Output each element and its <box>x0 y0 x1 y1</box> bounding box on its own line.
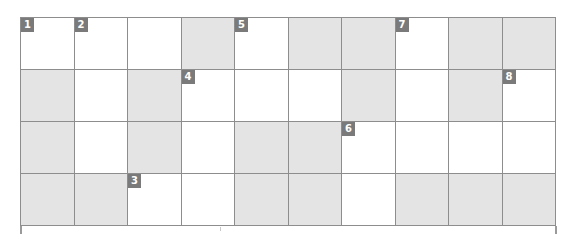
shaded-cell <box>503 18 557 70</box>
clue-number-badge: 7 <box>396 18 409 32</box>
shaded-cell <box>128 70 182 122</box>
crossword-grid: 12574863 <box>20 17 556 226</box>
crossword-page: 12574863 <box>0 0 572 234</box>
shaded-cell <box>503 174 557 226</box>
shaded-cell <box>289 18 343 70</box>
shaded-cell <box>21 70 75 122</box>
shaded-cell <box>449 18 503 70</box>
answer-cell[interactable] <box>75 70 129 122</box>
clue-number-badge: 6 <box>342 122 355 136</box>
grid-overflow-line-left <box>20 226 22 234</box>
shaded-cell <box>289 122 343 174</box>
answer-cell[interactable] <box>396 70 450 122</box>
clue-number-badge: 4 <box>182 70 195 84</box>
answer-cell[interactable] <box>75 122 129 174</box>
answer-cell[interactable]: 4 <box>182 70 236 122</box>
shaded-cell <box>128 122 182 174</box>
shaded-cell <box>75 174 129 226</box>
clue-number-badge: 1 <box>21 18 34 32</box>
shaded-cell <box>182 18 236 70</box>
answer-cell[interactable] <box>182 122 236 174</box>
clue-number-badge: 3 <box>128 174 141 188</box>
answer-cell[interactable] <box>289 70 343 122</box>
answer-cell[interactable] <box>396 122 450 174</box>
shaded-cell <box>21 174 75 226</box>
answer-cell[interactable] <box>182 174 236 226</box>
clue-number-badge: 8 <box>503 70 516 84</box>
answer-cell[interactable]: 3 <box>128 174 182 226</box>
grid-overflow-line-right <box>555 226 557 234</box>
answer-cell[interactable]: 1 <box>21 18 75 70</box>
shaded-cell <box>289 174 343 226</box>
answer-cell[interactable]: 8 <box>503 70 557 122</box>
answer-cell[interactable] <box>449 122 503 174</box>
answer-cell[interactable]: 2 <box>75 18 129 70</box>
shaded-cell <box>235 122 289 174</box>
page-mark <box>220 227 221 231</box>
answer-cell[interactable]: 6 <box>342 122 396 174</box>
answer-cell[interactable]: 5 <box>235 18 289 70</box>
answer-cell[interactable] <box>235 70 289 122</box>
clue-number-badge: 5 <box>235 18 248 32</box>
shaded-cell <box>21 122 75 174</box>
answer-cell[interactable] <box>503 122 557 174</box>
clue-number-badge: 2 <box>75 18 88 32</box>
answer-cell[interactable]: 7 <box>396 18 450 70</box>
shaded-cell <box>449 70 503 122</box>
shaded-cell <box>342 70 396 122</box>
shaded-cell <box>342 18 396 70</box>
shaded-cell <box>235 174 289 226</box>
shaded-cell <box>396 174 450 226</box>
answer-cell[interactable] <box>128 18 182 70</box>
answer-cell[interactable] <box>342 174 396 226</box>
shaded-cell <box>449 174 503 226</box>
